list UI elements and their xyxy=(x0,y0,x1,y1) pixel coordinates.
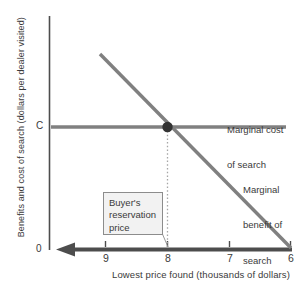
x-axis-arrowhead-icon xyxy=(56,243,75,257)
y-tick-label-zero: 0 xyxy=(36,243,42,255)
y-tick-label-c: C xyxy=(36,120,43,132)
y-axis-title: Benefits and cost of search (dollars per… xyxy=(16,12,26,242)
marginal-benefit-annotation-line3: search xyxy=(243,255,282,267)
marginal-benefit-annotation-line2: benefit of xyxy=(243,219,282,231)
reservation-price-callout: Buyer's reservation price xyxy=(103,192,163,235)
x-tick-label-8: 8 xyxy=(158,252,178,264)
search-theory-chart: Benefits and cost of search (dollars per… xyxy=(0,0,306,294)
equilibrium-point-marker xyxy=(162,122,172,132)
x-tick-label-6: 6 xyxy=(281,252,301,264)
x-tick-label-9: 9 xyxy=(96,252,116,264)
marginal-cost-annotation-line1: Marginal cost xyxy=(227,124,284,136)
marginal-benefit-annotation: Marginal benefit of search xyxy=(243,160,282,291)
marginal-benefit-annotation-line1: Marginal xyxy=(243,184,282,196)
x-tick-label-7: 7 xyxy=(220,252,240,264)
